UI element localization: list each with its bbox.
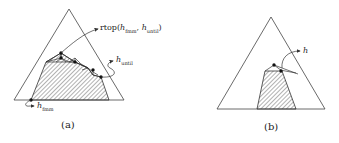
h-label: h [303,47,308,55]
h-fmm-pointer [26,100,34,106]
node-b-right [279,69,282,72]
panel-b [217,17,325,109]
hatched-region-a [31,53,109,100]
h-until-label: huntil [116,56,133,66]
node-b-top [272,63,275,66]
diagram-canvas [0,0,339,143]
rtop-label: rtop(hfmm, huntil) [100,24,162,34]
caption-a: (a) [61,120,75,130]
h-fmm-label: hfmm [37,102,54,112]
caption-b: (b) [264,122,278,132]
hatched-region-b [257,71,296,109]
rtop-pointer [61,29,98,53]
h-until-pointer [101,61,114,77]
h-pointer [282,51,300,68]
